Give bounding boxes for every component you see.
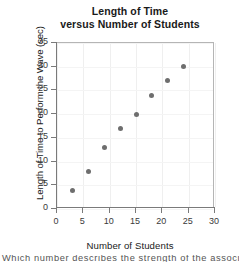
y-tick-mark (51, 137, 56, 138)
data-point (70, 188, 75, 193)
x-tick-mark (82, 208, 83, 213)
data-point (149, 93, 154, 98)
plot-area (56, 42, 214, 208)
y-tick-label: 15 (26, 131, 48, 141)
chart-title-line-1: Length of Time (30, 5, 230, 18)
x-tick-label: 5 (71, 216, 93, 226)
gridline-horizontal (57, 67, 213, 68)
gridline-horizontal (57, 43, 213, 44)
y-tick-mark (51, 66, 56, 67)
chart-title-line-2: versus Number of Students (30, 18, 230, 31)
bottom-caption-strip: Which number describes the strength of t… (0, 255, 239, 262)
y-tick-mark (51, 161, 56, 162)
x-tick-mark (56, 208, 57, 213)
gridline-vertical (215, 43, 216, 207)
gridline-horizontal (57, 138, 213, 139)
x-tick-mark (188, 208, 189, 213)
x-tick-label: 10 (98, 216, 120, 226)
y-tick-mark (51, 89, 56, 90)
x-tick-mark (214, 208, 215, 213)
y-tick-label: 35 (26, 36, 48, 46)
y-tick-mark (51, 42, 56, 43)
y-axis-spine (56, 42, 57, 208)
x-tick-mark (161, 208, 162, 213)
x-tick-mark (109, 208, 110, 213)
gridline-horizontal (57, 90, 213, 91)
gridline-horizontal (57, 185, 213, 186)
y-tick-label: 5 (26, 178, 48, 188)
y-tick-label: 10 (26, 155, 48, 165)
data-point (134, 112, 139, 117)
data-point (118, 126, 123, 131)
x-tick-label: 25 (177, 216, 199, 226)
chart-title: Length of Time versus Number of Students (30, 5, 230, 30)
x-tick-label: 30 (203, 216, 225, 226)
y-tick-label: 20 (26, 107, 48, 117)
y-tick-label: 25 (26, 83, 48, 93)
data-point (86, 169, 91, 174)
y-tick-mark (51, 113, 56, 114)
y-tick-label: 30 (26, 60, 48, 70)
x-tick-label: 15 (124, 216, 146, 226)
gridline-horizontal (57, 162, 213, 163)
bottom-caption-text: Which number describes the strength of t… (0, 255, 239, 262)
scatter-plot-figure: Length of Time versus Number of Students… (0, 0, 239, 262)
data-point (181, 64, 186, 69)
y-tick-label: 0 (26, 202, 48, 212)
data-point (165, 78, 170, 83)
x-axis-label: Number of Students (30, 240, 230, 251)
data-point (102, 145, 107, 150)
x-tick-label: 20 (150, 216, 172, 226)
x-tick-mark (135, 208, 136, 213)
y-tick-mark (51, 184, 56, 185)
x-tick-label: 0 (45, 216, 67, 226)
